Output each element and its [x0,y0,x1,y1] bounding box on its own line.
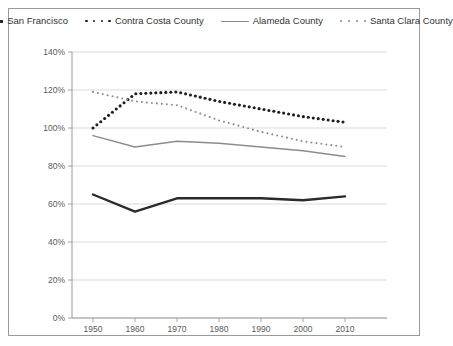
data-dot [199,96,202,99]
y-tick-label: 100% [31,124,65,133]
series-san-francisco [93,195,345,212]
data-dot [266,132,268,134]
data-dot [180,106,182,108]
data-dot [102,93,104,95]
series-alameda-county [93,136,345,157]
data-dot [199,113,201,115]
y-tick-label: 0% [31,314,65,323]
data-dot [276,134,278,136]
data-dot [116,96,118,98]
data-dot [209,116,211,118]
data-dot [223,121,225,123]
data-dot [208,98,211,101]
y-tick-label: 140% [31,48,65,57]
data-dot [107,94,109,96]
data-dot [291,138,293,140]
data-dot [184,92,187,95]
data-dot [296,139,298,141]
data-dot [242,126,244,128]
data-dot [146,101,148,103]
data-dot [335,145,337,147]
data-dot [149,92,152,95]
data-dot [95,123,98,126]
y-tick-label: 60% [31,200,65,209]
y-tick-label: 80% [31,162,65,171]
data-dot [281,136,283,138]
data-dot [121,97,123,99]
data-dot [92,91,94,93]
data-dot [257,130,259,132]
data-dot [320,143,322,145]
data-dot [301,140,303,142]
data-dot [111,95,113,97]
series-contra-costa-county [91,90,344,129]
data-dot [297,114,300,117]
data-dot [271,133,273,135]
data-dot [130,95,133,98]
data-dot [164,91,167,94]
data-dot [134,92,137,95]
data-dot [233,123,235,125]
x-tick-label: 2010 [327,325,363,334]
data-dot [213,99,216,102]
data-dot [325,143,327,145]
data-dot [204,114,206,116]
data-dot [223,101,226,104]
data-dot [195,111,197,113]
data-dot [97,92,99,94]
data-dot [107,114,110,117]
data-dot [286,137,288,139]
data-dot [119,104,122,107]
data-dot [141,101,143,103]
x-tick-label: 1960 [117,325,153,334]
data-dot [169,91,172,94]
data-dot [176,104,178,106]
data-dot [228,102,231,105]
data-dot [310,141,312,143]
data-dot [332,119,335,122]
data-dot [253,106,256,109]
data-dot [122,101,125,104]
data-dot [179,91,182,94]
x-tick-label: 1990 [243,325,279,334]
data-dot [312,116,315,119]
y-tick-label: 20% [31,276,65,285]
data-dot [327,118,330,121]
data-dot [194,94,197,97]
data-dot [131,100,133,102]
data-dot [156,102,158,104]
data-dot [322,118,325,121]
data-dot [248,105,251,108]
data-dot [91,126,94,129]
data-dot [166,103,168,105]
data-dot [282,112,285,115]
data-dot [340,145,342,147]
x-tick-label: 1950 [75,325,111,334]
data-dot [315,142,317,144]
y-tick-label: 120% [31,86,65,95]
data-dot [336,120,339,123]
data-dot [99,120,102,123]
data-dot [262,108,265,111]
data-dot [204,97,207,100]
data-dot [317,117,320,120]
data-dot [154,91,157,94]
data-dot [159,91,162,94]
data-dot [305,141,307,143]
data-dot [103,117,106,120]
data-dot [228,122,230,124]
y-tick-label: 40% [31,238,65,247]
data-dot [307,116,310,119]
data-dot [213,118,215,120]
series-santa-clara-county [92,91,342,148]
data-dot [243,104,246,107]
data-dot [267,109,270,112]
data-dot [171,104,173,106]
data-dot [237,125,239,127]
data-dot [115,108,118,111]
x-tick-label: 1970 [159,325,195,334]
data-dot [302,115,305,118]
data-dot [126,99,128,101]
data-dot [161,103,163,105]
